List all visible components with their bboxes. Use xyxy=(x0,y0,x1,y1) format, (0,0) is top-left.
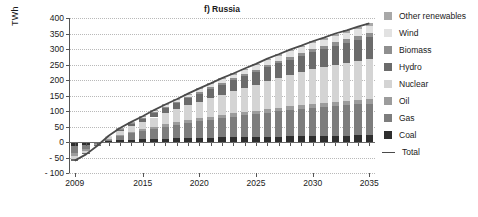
legend-label: Wind xyxy=(399,29,418,38)
x-major-tick-mark xyxy=(75,173,76,177)
x-tick-label: 2020 xyxy=(190,179,209,188)
total-line-series xyxy=(69,18,375,173)
legend-label: Total xyxy=(402,148,420,157)
legend-swatch xyxy=(384,12,392,20)
legend-item[interactable]: Gas xyxy=(384,112,415,124)
y-tick-label: 200 xyxy=(50,76,64,84)
chart-legend: Other renewablesWindBiomassHydroNuclearO… xyxy=(384,10,478,180)
x-major-tick-mark xyxy=(256,173,257,177)
x-tick-label: 2009 xyxy=(65,179,84,188)
x-major-tick-mark xyxy=(143,173,144,177)
legend-swatch xyxy=(384,29,392,37)
legend-item[interactable]: Other renewables xyxy=(384,10,466,22)
legend-swatch xyxy=(384,80,392,88)
y-tick-label: 350 xyxy=(50,30,64,38)
chart-title: f) Russia xyxy=(204,4,240,14)
chart-figure: TWh - 100- 50050100150200250300350400 20… xyxy=(0,0,478,217)
legend-item[interactable]: Wind xyxy=(384,27,418,39)
y-axis-tick-labels: - 100- 50050100150200250300350400 xyxy=(22,0,68,217)
y-tick-label: 100 xyxy=(50,107,64,115)
y-tick-label: - 50 xyxy=(49,154,64,162)
plot-area xyxy=(69,18,375,173)
x-tick-label: 2015 xyxy=(133,179,152,188)
legend-swatch xyxy=(384,97,392,105)
legend-item[interactable]: Coal xyxy=(384,129,416,141)
y-tick-label: 400 xyxy=(50,14,64,22)
legend-item[interactable]: Biomass xyxy=(384,44,432,56)
y-tick-label: 300 xyxy=(50,45,64,53)
y-tick-label: - 100 xyxy=(45,169,64,177)
legend-label: Other renewables xyxy=(399,12,466,21)
grid-line xyxy=(69,173,375,174)
legend-line-marker xyxy=(382,152,395,153)
x-major-tick-mark xyxy=(369,173,370,177)
total-line-path xyxy=(75,23,370,160)
legend-swatch xyxy=(384,114,392,122)
x-major-tick-mark xyxy=(199,173,200,177)
x-major-tick-mark xyxy=(313,173,314,177)
legend-item[interactable]: Total xyxy=(384,146,420,158)
y-tick-label: 250 xyxy=(50,61,64,69)
legend-label: Gas xyxy=(399,114,415,123)
legend-swatch xyxy=(384,63,392,71)
y-tick-label: 0 xyxy=(59,138,64,146)
legend-label: Coal xyxy=(399,131,416,140)
x-tick-label: 2025 xyxy=(247,179,266,188)
legend-label: Oil xyxy=(399,97,409,106)
y-tick-label: 150 xyxy=(50,92,64,100)
legend-label: Nuclear xyxy=(399,80,428,89)
y-tick-mark xyxy=(66,173,69,174)
y-tick-label: 50 xyxy=(55,123,64,131)
legend-item[interactable]: Nuclear xyxy=(384,78,428,90)
legend-item[interactable]: Oil xyxy=(384,95,409,107)
legend-label: Hydro xyxy=(399,63,422,72)
legend-label: Biomass xyxy=(399,46,432,55)
x-tick-label: 2030 xyxy=(303,179,322,188)
legend-item[interactable]: Hydro xyxy=(384,61,422,73)
y-axis-label: TWh xyxy=(10,12,20,26)
legend-swatch xyxy=(384,46,392,54)
x-tick-label: 2035 xyxy=(360,179,379,188)
legend-swatch xyxy=(384,131,392,139)
